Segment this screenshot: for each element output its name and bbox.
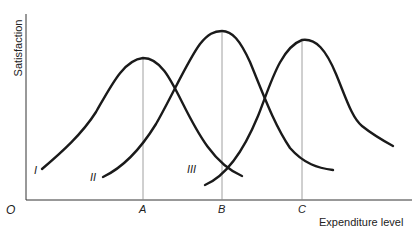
curve-label-iii: III — [187, 163, 196, 175]
curve-ii — [103, 31, 333, 177]
x-axis-label: Expenditure level — [319, 216, 403, 228]
tick-label-b: B — [218, 203, 225, 215]
tick-label-c: C — [298, 203, 306, 215]
y-axis-label: Satisfaction — [12, 8, 24, 88]
curve-iii — [205, 40, 393, 185]
curve-i — [42, 58, 242, 176]
diagram-canvas — [0, 0, 415, 231]
origin-label: O — [6, 203, 15, 217]
curve-label-i: I — [34, 164, 37, 176]
tick-label-a: A — [139, 203, 146, 215]
curve-label-ii: II — [90, 171, 96, 183]
